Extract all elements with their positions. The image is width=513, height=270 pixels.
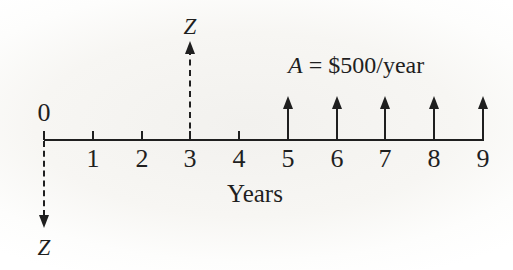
- year-label-3: 3: [177, 146, 203, 172]
- year-label-6: 6: [324, 146, 350, 172]
- cashflow-arrowhead-icon-year-5: [283, 96, 293, 109]
- cashflow-amount-annotation: A = $500/year: [288, 53, 424, 77]
- year-label-8: 8: [421, 146, 447, 172]
- origin-label: 0: [31, 100, 57, 126]
- cash-flow-diagram: 123456789 0 A = $500/year Z Z Years: [0, 0, 513, 270]
- cashflow-arrow-stem-year-8: [433, 105, 435, 140]
- tick-year-1: [92, 131, 94, 140]
- cashflow-arrowhead-icon-year-8: [429, 96, 439, 109]
- year-label-9: 9: [470, 146, 496, 172]
- z-down-arrowhead-icon: [39, 215, 49, 228]
- cashflow-arrowhead-icon-year-7: [380, 96, 390, 109]
- year-label-7: 7: [372, 146, 398, 172]
- z-down-dashed-arrow-stem: [43, 141, 45, 216]
- tick-year-0: [43, 131, 45, 140]
- cashflow-arrow-stem-year-5: [287, 105, 289, 140]
- cashflow-arrow-stem-year-6: [336, 105, 338, 140]
- year-label-5: 5: [275, 146, 301, 172]
- time-axis: [44, 139, 484, 141]
- z-up-arrowhead-icon: [185, 41, 195, 54]
- axis-title: Years: [200, 181, 310, 206]
- z-up-dashed-arrow-stem: [189, 49, 191, 139]
- year-label-1: 1: [80, 146, 106, 172]
- tick-year-2: [141, 131, 143, 140]
- cashflow-arrowhead-icon-year-9: [478, 96, 488, 109]
- z-up-label: Z: [177, 15, 203, 38]
- cashflow-arrow-stem-year-9: [482, 105, 484, 140]
- tick-year-4: [238, 131, 240, 140]
- z-down-label: Z: [31, 236, 57, 259]
- cashflow-arrowhead-icon-year-6: [332, 96, 342, 109]
- year-label-4: 4: [226, 146, 252, 172]
- annotation-value: = $500/year: [303, 52, 425, 78]
- year-label-2: 2: [129, 146, 155, 172]
- annotation-variable: A: [288, 52, 303, 78]
- cashflow-arrow-stem-year-7: [384, 105, 386, 140]
